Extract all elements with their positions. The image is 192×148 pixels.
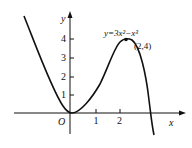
x-axis-arrow-icon xyxy=(179,111,186,116)
x-ticks xyxy=(96,109,120,113)
y-tick-label-4: 4 xyxy=(61,33,66,44)
y-ticks xyxy=(70,39,74,95)
origin-label: O xyxy=(58,116,65,127)
y-axis-arrow-icon xyxy=(68,11,73,18)
y-tick-label-1: 1 xyxy=(61,89,66,100)
function-label: y=3x²−x³ xyxy=(103,28,138,38)
function-graph: 1 2 3 4 1 2 O x y y=3x²−x³ (2,4) xyxy=(0,0,192,148)
x-tick-label-2: 2 xyxy=(117,115,122,126)
peak-point-label: (2,4) xyxy=(134,41,151,51)
x-axis-label: x xyxy=(168,117,174,128)
x-tick-label-1: 1 xyxy=(94,115,99,126)
y-tick-label-2: 2 xyxy=(61,71,66,82)
y-axis-label: y xyxy=(60,13,66,24)
peak-point-marker xyxy=(124,38,128,42)
y-tick-label-3: 3 xyxy=(61,52,66,63)
